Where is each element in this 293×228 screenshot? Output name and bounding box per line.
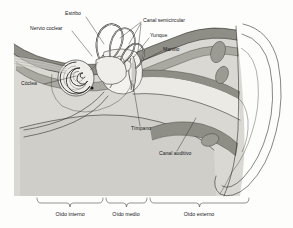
region-label-oido-medio: Oído medio bbox=[112, 211, 139, 217]
part-label-canal-auditivo: Canal auditivo bbox=[159, 150, 191, 156]
part-label-nervio-coclear: Nervio coclear bbox=[30, 25, 63, 31]
part-label-timpano: Tímpano bbox=[131, 125, 151, 131]
round-window-marker bbox=[90, 86, 93, 89]
part-label-coclea: Cóclea bbox=[21, 80, 37, 86]
part-label-yunque: Yunque bbox=[150, 32, 167, 38]
region-label-oido-externo: Oído externo bbox=[184, 211, 215, 217]
part-label-canal-semicircular: Canal semicircular bbox=[143, 17, 185, 23]
region-label-oido-interno: Oído interno bbox=[55, 211, 84, 217]
ear-anatomy-illustration: EstriboNervio coclearCanal semicircularY… bbox=[0, 0, 293, 228]
ear-anatomy-diagram: EstriboNervio coclearCanal semicircularY… bbox=[0, 0, 293, 228]
part-label-estribo: Estribo bbox=[65, 10, 81, 16]
part-label-martillo: Martillo bbox=[163, 46, 180, 52]
